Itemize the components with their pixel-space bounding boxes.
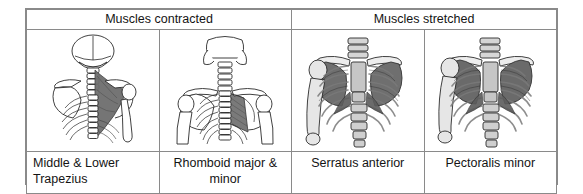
image-cell-pectoralis-minor xyxy=(424,30,557,152)
image-cell-rhomboid xyxy=(159,30,292,152)
table-image-row xyxy=(27,30,557,152)
posterior-torso-trapezius-diagram xyxy=(27,33,159,149)
header-muscles-stretched: Muscles stretched xyxy=(292,10,557,30)
image-cell-serratus-anterior xyxy=(292,30,425,152)
caption-rhomboid: Rhomboid major & minor xyxy=(159,152,292,192)
table-caption-row: Middle & Lower Trapezius Rhomboid major … xyxy=(27,152,557,192)
anatomy-table: Muscles contracted Muscles stretched xyxy=(26,9,557,191)
caption-trapezius: Middle & Lower Trapezius xyxy=(27,152,160,192)
caption-pectoralis-minor: Pectoralis minor xyxy=(424,152,557,192)
header-muscles-contracted: Muscles contracted xyxy=(27,10,292,30)
caption-serratus-anterior: Serratus anterior xyxy=(292,152,425,192)
anterior-ribcage-pectoralis-minor-diagram xyxy=(425,33,557,149)
anterior-ribcage-serratus-anterior-diagram xyxy=(292,33,424,149)
table-header-row: Muscles contracted Muscles stretched xyxy=(27,10,557,30)
image-cell-trapezius xyxy=(27,30,160,152)
posterior-torso-rhomboid-diagram xyxy=(160,33,292,149)
anatomy-comparison-figure: Muscles contracted Muscles stretched xyxy=(25,8,558,185)
